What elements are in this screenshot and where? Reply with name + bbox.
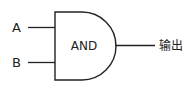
- input-a-label: A: [12, 20, 21, 35]
- output-label: 输出: [159, 38, 183, 53]
- input-b-label: B: [12, 55, 21, 70]
- and-gate-diagram: A B AND 输出: [0, 0, 191, 89]
- gate-label: AND: [71, 39, 97, 53]
